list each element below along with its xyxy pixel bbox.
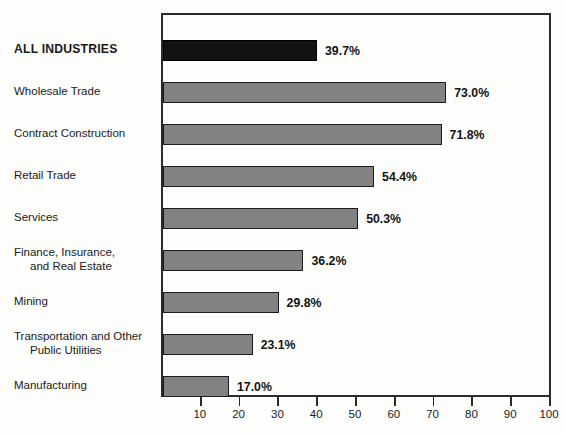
bar	[163, 376, 229, 397]
bar-row: 50.3%	[163, 208, 553, 229]
bar	[163, 124, 442, 145]
category-label-line1: Services	[14, 211, 58, 223]
category-label-line1: ALL INDUSTRIES	[14, 42, 117, 56]
bar-value-label: 54.4%	[382, 170, 417, 184]
x-axis-tick	[471, 397, 473, 406]
x-axis: 102030405060708090100	[161, 397, 551, 435]
category-label: Transportation and OtherPublic Utilities	[0, 329, 150, 357]
category-label-line1: Finance, Insurance,	[14, 246, 115, 258]
bar-value-label: 71.8%	[450, 128, 485, 142]
bar-value-label: 36.2%	[311, 254, 346, 268]
category-label: Services	[0, 210, 150, 224]
category-label-line1: Mining	[14, 295, 48, 307]
bar-value-label: 50.3%	[366, 212, 401, 226]
bar	[163, 166, 374, 187]
bar-row: 54.4%	[163, 166, 553, 187]
bar-row: 17.0%	[163, 376, 553, 397]
category-label-line2: and Real Estate	[14, 259, 150, 273]
category-label: Finance, Insurance,and Real Estate	[0, 245, 150, 273]
bar-value-label: 17.0%	[237, 380, 272, 394]
category-label-line2: Public Utilities	[14, 343, 150, 357]
bar-chart: ALL INDUSTRIESWholesale TradeContract Co…	[0, 0, 566, 435]
category-label-line1: Manufacturing	[14, 379, 87, 391]
category-label: Mining	[0, 294, 150, 308]
x-axis-tick-label: 10	[193, 408, 206, 420]
category-label-column: ALL INDUSTRIESWholesale TradeContract Co…	[0, 0, 155, 435]
bar	[163, 334, 253, 355]
category-label: Manufacturing	[0, 378, 150, 392]
bar	[163, 250, 303, 271]
category-label: ALL INDUSTRIES	[0, 42, 150, 56]
plot-area: 39.7%73.0%71.8%54.4%50.3%36.2%29.8%23.1%…	[161, 13, 551, 397]
x-axis-tick-label: 60	[387, 408, 400, 420]
x-axis-tick	[433, 397, 435, 406]
bar-row: 73.0%	[163, 82, 553, 103]
x-axis-tick-label: 40	[310, 408, 323, 420]
bar-value-label: 73.0%	[454, 86, 489, 100]
bar-row: 71.8%	[163, 124, 553, 145]
category-label-line1: Transportation and Other	[14, 330, 142, 342]
x-axis-tick	[277, 397, 279, 406]
x-axis-tick	[394, 397, 396, 406]
bar-value-label: 39.7%	[325, 44, 360, 58]
x-axis-tick-label: 100	[539, 408, 558, 420]
x-axis-tick-label: 30	[271, 408, 284, 420]
category-label: Retail Trade	[0, 168, 150, 182]
bar	[163, 292, 279, 313]
bar-value-label: 23.1%	[261, 338, 296, 352]
x-axis-tick	[239, 397, 241, 406]
bar-row: 39.7%	[163, 40, 553, 61]
x-axis-tick	[510, 397, 512, 406]
x-axis-tick	[316, 397, 318, 406]
category-label-line1: Retail Trade	[14, 169, 76, 181]
x-axis-tick	[200, 397, 202, 406]
x-axis-tick-label: 70	[426, 408, 439, 420]
x-axis-tick-label: 90	[504, 408, 517, 420]
category-label: Wholesale Trade	[0, 84, 150, 98]
bar	[163, 208, 358, 229]
category-label: Contract Construction	[0, 126, 150, 140]
bar-value-label: 29.8%	[287, 296, 322, 310]
bar-row: 23.1%	[163, 334, 553, 355]
bar	[163, 82, 446, 103]
x-axis-tick-label: 80	[465, 408, 478, 420]
bar	[163, 40, 317, 61]
x-axis-tick	[355, 397, 357, 406]
category-label-line1: Contract Construction	[14, 127, 125, 139]
x-axis-tick-label: 50	[349, 408, 362, 420]
bar-row: 29.8%	[163, 292, 553, 313]
x-axis-tick	[549, 397, 551, 406]
category-label-line1: Wholesale Trade	[14, 85, 100, 97]
x-axis-tick-label: 20	[232, 408, 245, 420]
bar-row: 36.2%	[163, 250, 553, 271]
